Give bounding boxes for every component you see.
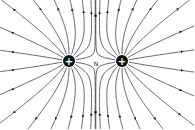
- field-line: [0, 66, 64, 126]
- field-line: [0, 0, 64, 56]
- svg-text:N: N: [94, 60, 99, 67]
- field-lines-svg: N + +: [0, 0, 194, 129]
- arrow-icon: [135, 118, 136, 119]
- arrow-icon: [179, 114, 180, 115]
- field-line: [116, 0, 123, 54]
- arrow-icon: [150, 9, 151, 10]
- field-line: [124, 68, 167, 129]
- field-line: [0, 50, 62, 60]
- field-line: [129, 62, 194, 73]
- field-line: [49, 68, 69, 129]
- arrow-icon: [132, 9, 133, 10]
- charge-left: +: [63, 55, 75, 67]
- field-line: [96, 0, 115, 60]
- field-line: [107, 66, 118, 129]
- field-line: [76, 0, 95, 60]
- arrow-icon: [58, 9, 59, 10]
- arrow-icon: [12, 89, 13, 90]
- field-line: [0, 65, 63, 97]
- field-line: [122, 68, 142, 129]
- field-line: [52, 0, 69, 54]
- arrow-icon: [56, 118, 57, 119]
- field-line: [128, 24, 194, 57]
- field-line: [0, 62, 62, 72]
- field-line: [74, 66, 85, 129]
- arrow-icon: [180, 90, 181, 91]
- field-line: [128, 65, 194, 98]
- arrow-icon: [177, 9, 178, 10]
- arrow-icon: [36, 118, 37, 119]
- arrow-icon: [14, 112, 15, 113]
- arrow-icon: [12, 33, 13, 34]
- field-line: [99, 65, 116, 130]
- arrow-icon: [14, 10, 15, 11]
- field-line: [69, 0, 76, 54]
- field-line: [75, 65, 92, 130]
- charge-right: +: [116, 55, 128, 67]
- field-line: [129, 49, 194, 60]
- field-line: [122, 0, 139, 54]
- field-line: [127, 0, 195, 56]
- arrow-icon: [154, 118, 155, 119]
- plus-icon: +: [65, 56, 73, 67]
- field-line: [24, 68, 67, 129]
- plus-icon: +: [118, 56, 126, 67]
- field-line: [127, 66, 195, 129]
- neutral-point: N: [94, 60, 99, 67]
- field-diagram: N + +: [0, 0, 194, 129]
- arrow-icon: [40, 9, 41, 10]
- field-line: [0, 26, 63, 58]
- arrow-icon: [180, 32, 181, 33]
